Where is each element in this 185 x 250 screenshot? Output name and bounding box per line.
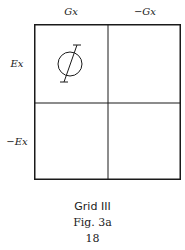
caption-grid-title: Grid III [0, 200, 185, 213]
row-label-neg-ex: −Ex [2, 136, 32, 147]
column-label-gx: Gx [34, 6, 108, 17]
page-number: 18 [0, 232, 185, 245]
column-label-neg-gx: −Gx [108, 6, 182, 17]
caption-figure-label: Fig. 3a [0, 216, 185, 229]
circle-slash-symbol-icon [58, 45, 82, 82]
grid-diagram [34, 24, 181, 180]
row-label-ex: Ex [2, 58, 32, 69]
